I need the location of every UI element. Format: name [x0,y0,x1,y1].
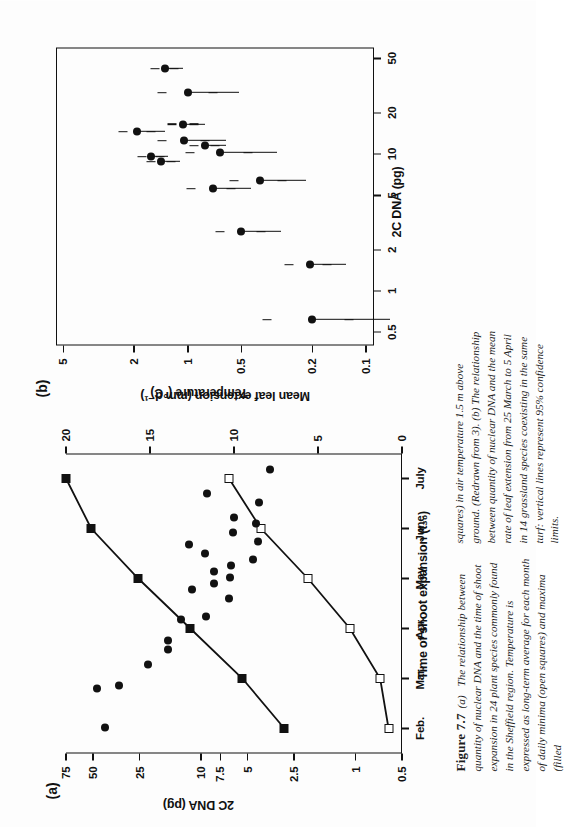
panel-b-marker-filled-circle [133,127,141,135]
panel-b-marker-filled-circle [180,136,188,144]
panel-b-marker-filled-circle [179,120,187,128]
panel-b-left-tick-label: 5 [57,358,69,364]
panel-a-marker-filled-circle [254,538,262,546]
panel-a-right-tick [65,446,67,453]
panel-b-error-cap-upper [190,145,199,146]
panel-a-marker-filled-circle [229,529,237,537]
panel-a-marker-filled-circle [101,724,109,732]
panel-a-marker-filled-circle [203,490,211,498]
caption-panel-a-marker: (a) [455,695,467,708]
panel-b-marker-filled-circle [256,176,264,184]
panel-a-left-tick [247,753,249,760]
panel-a-marker-filled-square [280,724,289,733]
panel-a-marker-filled-circle [144,661,152,669]
panel-a-marker-filled-circle [188,586,196,594]
panel-a-right-tick-label: 5 [312,435,324,441]
panel-b-error-cap-lower [155,155,164,156]
panel-b-marker-filled-circle [147,152,155,160]
panel-b-marker-filled-circle [216,148,224,156]
panel-b-error-cap-upper [138,155,147,156]
panel-b-left-tick-label: 0.5 [235,358,247,373]
panel-a-marker-filled-circle [164,637,172,645]
panel-a-left-tick [65,753,67,760]
panel-b-left-tick [133,345,135,352]
panel-a-marker-filled-circle [252,520,260,528]
panel-a-marker-filled-circle [230,514,238,522]
panel-a-right-tick [149,446,151,453]
panel-b-left-tick [241,345,243,352]
panel-a-right-tick [233,446,235,453]
panel-a-marker-filled-circle [210,580,218,588]
caption-column-1: Figure 7.7(a) The relationship between q… [452,557,566,771]
panel-a-bottom-tick [402,477,409,479]
panel-a-marker-filled-circle [185,541,193,549]
panel-a-left-tick-label: 2.5 [288,766,300,781]
panel-b-bottom-tick [374,331,381,333]
panel-b-bottom-tick [374,57,381,59]
panel-b-letter: (b) [34,379,50,397]
panel-a-marker-filled-circle [201,550,209,558]
panel-a-right-tick-label: 20 [60,429,72,441]
panel-b-error-cap-upper [215,231,224,232]
panel-a-marker-open-square [345,624,354,633]
figure-number: Figure 7.7 [453,713,468,771]
panel-b-marker-filled-circle [157,157,165,165]
panel-a-marker-filled-square [134,574,143,583]
panel-a-marker-open-square [303,574,312,583]
panel-a-marker-filled-circle [225,595,233,603]
panel-a-bottom-tick-label: Mar. [414,667,426,689]
panel-b-left-axis-title: Mean leaf extension (mm d⁻¹) [141,388,311,403]
panel-a-marker-filled-circle [115,682,123,690]
panel-b-bottom-tick [374,153,381,155]
panel-b-bottom-tick-label: 1 [386,287,398,293]
panel-a-marker-open-square [384,724,393,733]
panel-a-bottom-tick-label: Feb. [414,717,426,740]
panel-a-bottom-tick [402,727,409,729]
panel-b-error-cap-lower [209,92,218,93]
panel-a-marker-filled-square [186,624,195,633]
panel-a-marker-filled-circle [227,562,235,570]
panel-b-error-cap-lower [211,145,220,146]
panel-b-marker-filled-circle [237,227,245,235]
panel-a-bottom-tick-label: May [414,567,426,589]
panel-b-error-cap-upper [186,152,195,153]
panel-a-left-tick-label: 7.5 [214,766,226,781]
panel-b-left-tick [63,345,65,352]
panel-b-bottom-tick-label: 10 [386,147,398,159]
panel-a-left-tick [92,753,94,760]
panel-b-error-cap-lower [147,131,156,132]
panel-b-error-cap-upper [168,123,177,124]
panel-b-bottom-axis-title: 2C DNA (pg) [390,166,404,237]
panel-a-marker-filled-circle [249,556,257,564]
panel-a-marker-filled-square [87,524,96,533]
panel-b-left-tick-label: 0.2 [306,358,318,373]
panel-a-right-tick-label: 10 [228,429,240,441]
panel-a-left-tick-label: 1 [350,766,362,772]
panel-a-marker-open-square [224,474,233,483]
figure-caption: Figure 7.7(a) The relationship between q… [452,319,566,771]
panel-b-bottom-tick-label: 5 [386,192,398,198]
panel-b-bottom-tick-label: 2 [386,246,398,252]
panel-b-bottom-tick-label: 0.5 [386,324,398,339]
panel-b-left-tick [365,345,367,352]
panel-b-marker-filled-circle [308,315,316,323]
panel-a-bottom-tick [402,677,409,679]
panel-a-marker-filled-circle [266,466,274,474]
panel-a-bottom-tick-label: July [414,467,426,489]
panel-a-marker-filled-circle [255,499,263,507]
panel-b-bottom-tick [374,249,381,251]
panel-b-left-tick [312,345,314,352]
chart-panel-a: (a) 2C DNA (pg) Temperature (°C) Time of… [38,427,436,799]
panel-b-marker-filled-circle [184,88,192,96]
panel-b-error-cap-lower [169,68,178,69]
panel-a-bottom-tick [402,627,409,629]
panel-a-left-tick [200,753,202,760]
panel-a-bottom-tick [402,577,409,579]
panel-b-error-cap-upper [119,131,128,132]
panel-a-left-tick-label: 50 [87,766,99,778]
panel-a-left-tick [139,753,141,760]
panel-a-left-axis-title: 2C DNA (pg) [163,797,234,811]
panel-b-error-cap-upper [285,264,294,265]
panel-a-left-tick-label: 75 [60,766,72,778]
panel-b-left-tick-label: 1 [182,358,194,364]
